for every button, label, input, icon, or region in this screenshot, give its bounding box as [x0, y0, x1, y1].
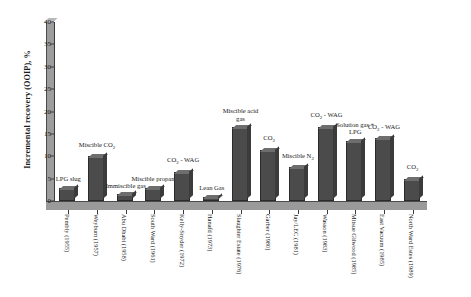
bar[interactable] — [174, 172, 190, 201]
bar-side-face — [419, 175, 423, 199]
bar-side-face — [361, 137, 365, 199]
x-axis-tick-label: Hanafd (1973) — [207, 214, 214, 294]
x-axis-tick-label: Kelly-Snyder (1972) — [179, 214, 186, 294]
bar[interactable] — [318, 127, 334, 201]
x-axis-tick-label: East Vacuum (1985) — [379, 214, 386, 294]
bar-side-face — [304, 164, 308, 199]
bar-slot: CO2 — [257, 22, 281, 201]
bar[interactable] — [59, 188, 75, 201]
x-axis-tick-label: Weyburn (1957) — [93, 214, 100, 294]
bar-slot: Miscible propane — [142, 22, 166, 201]
x-axis-tick-label: South Ward (1961) — [150, 214, 157, 294]
bar[interactable] — [404, 179, 420, 201]
bar-slot: CO2 - WAG — [315, 22, 339, 201]
bar-slot: CO2 — [401, 22, 425, 201]
plot-area: 0510152025303540 LPG slugMiscible CO2Imm… — [54, 22, 427, 210]
x-axis-tick-label: Jay/LEC (1981) — [293, 214, 300, 294]
bar[interactable] — [289, 167, 305, 201]
bar[interactable] — [232, 127, 248, 201]
x-axis-labels: Pembly (1955)Weyburn (1957)Abu Dhabi (19… — [54, 214, 427, 296]
bar-side-face — [103, 153, 107, 199]
bar[interactable] — [203, 197, 219, 201]
x-axis-tick-label: Slaughter Estate (1976) — [236, 214, 243, 294]
x-axis-tick-label: North Ward Estes (1989) — [408, 214, 415, 294]
bar-slot: Immiscible gas — [114, 22, 138, 201]
bar-slot: Solution gas + LPG — [343, 22, 367, 201]
bar-slot: LPG slug — [56, 22, 80, 201]
bar[interactable] — [117, 194, 133, 201]
bar[interactable] — [375, 138, 391, 201]
bar-side-face — [160, 184, 164, 199]
x-axis-tick-label: Mitsue Gilwood (1985) — [351, 214, 358, 294]
bar[interactable] — [346, 141, 362, 201]
bar-slot: CO2 - WAG — [372, 22, 396, 201]
plot-floor — [46, 201, 427, 210]
x-axis-tick-label: Wasson (1983) — [322, 214, 329, 294]
bar-side-face — [74, 184, 78, 199]
bar[interactable] — [88, 156, 104, 201]
y-axis-title: Incremental recovery (OOIP), % — [23, 40, 32, 180]
x-axis-tick-label: Garber (1980) — [265, 214, 272, 294]
x-axis-tick-label: Pembly (1955) — [64, 214, 71, 294]
bar[interactable] — [145, 188, 161, 201]
bar-slot: Miscible CO2 — [85, 22, 109, 201]
bar[interactable] — [260, 150, 276, 201]
x-axis-tick-label: Abu Dhabi (1958) — [121, 214, 128, 294]
bar-side-face — [132, 191, 136, 199]
bar-slot: CO2 - WAG — [171, 22, 195, 201]
bar-series: LPG slugMiscible CO2Immiscible gasMiscib… — [54, 22, 427, 201]
bar-value-label: CO2 — [390, 163, 436, 174]
bar-slot: Miscible acid gas — [229, 22, 253, 201]
bar-chart: Incremental recovery (OOIP), % 051015202… — [0, 0, 471, 297]
